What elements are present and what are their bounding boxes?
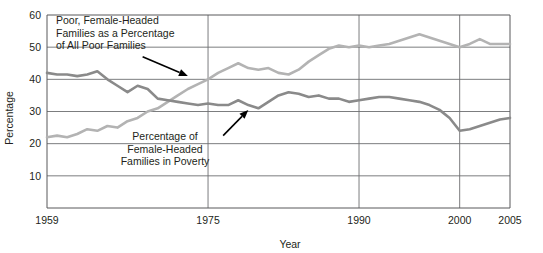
annot-poor-female-headed-share-line-3: of All Poor Families [56,39,146,51]
annot-female-headed-poverty-rate-line-3: Families in Poverty [121,155,210,167]
x-axis-title: Year [279,238,301,250]
y-tick-label: 40 [29,73,41,85]
annot-female-headed-poverty-rate-line-2: Female-Headed [127,143,202,155]
y-tick-label: 10 [29,170,41,182]
line-chart: 102030405060 19591975199020002005 Poor, … [0,0,543,253]
y-tick-label: 60 [29,9,41,21]
y-axis-title: Percentage [3,91,15,145]
x-tick-label: 1959 [35,214,59,226]
x-tick-label: 2000 [448,214,472,226]
chart-container: 102030405060 19591975199020002005 Poor, … [0,0,543,253]
y-tick-label: 20 [29,137,41,149]
y-tick-label: 30 [29,105,41,117]
y-tick-label: 50 [29,41,41,53]
x-tick-label: 1975 [196,214,220,226]
x-tick-label: 2005 [498,214,522,226]
annot-poor-female-headed-share-line-2: Families as a Percentage [56,27,175,39]
annot-female-headed-poverty-rate-line-1: Percentage of [132,130,197,142]
x-tick-label: 1990 [347,214,371,226]
annot-poor-female-headed-share-line-1: Poor, Female-Headed [56,14,159,26]
